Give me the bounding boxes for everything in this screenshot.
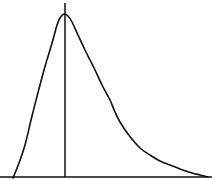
density-plot-svg [0, 0, 222, 181]
plot-background [0, 0, 222, 181]
chart-figure [0, 0, 222, 181]
